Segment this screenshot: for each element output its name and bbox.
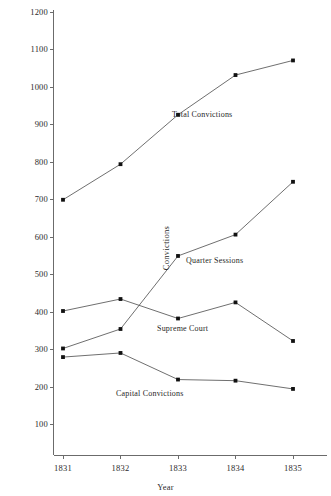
data-point: [61, 309, 65, 313]
data-point: [291, 339, 295, 343]
data-point: [61, 347, 65, 351]
data-point: [61, 355, 65, 359]
data-point: [291, 180, 295, 184]
data-point: [119, 327, 123, 331]
y-tick-label: 300: [12, 345, 48, 354]
line-chart: Convictions Year 10020030040050060070080…: [0, 0, 331, 496]
y-axis-title-text: Convictions: [161, 226, 171, 270]
series-label: Quarter Sessions: [186, 256, 243, 265]
data-point: [234, 233, 238, 237]
x-axis-title: Year: [0, 482, 331, 492]
series-label: Capital Convictions: [116, 389, 184, 398]
y-tick-label: 1000: [12, 83, 48, 92]
series-total-convictions: [61, 59, 295, 202]
y-tick-label: 700: [12, 195, 48, 204]
y-tick-label: 200: [12, 383, 48, 392]
data-point: [176, 378, 180, 382]
series-supreme-court: [61, 297, 295, 343]
series-label: Total Convictions: [172, 110, 232, 119]
data-point: [234, 73, 238, 77]
data-point: [234, 301, 238, 305]
data-point: [61, 198, 65, 202]
axes: [54, 10, 328, 456]
data-point: [119, 297, 123, 301]
data-point: [119, 351, 123, 355]
y-tick-label: 800: [12, 158, 48, 167]
y-tick-label: 100: [12, 420, 48, 429]
series-capital-convictions: [61, 351, 295, 391]
y-tick-label: 600: [12, 233, 48, 242]
data-point: [119, 162, 123, 166]
series-line: [63, 60, 293, 199]
y-tick-label: 900: [12, 120, 48, 129]
series-line: [63, 353, 293, 389]
y-tick-label: 400: [12, 308, 48, 317]
data-point: [234, 379, 238, 383]
y-tick-marks: [50, 13, 54, 425]
x-tick-label: 1835: [273, 464, 313, 473]
x-tick-label: 1832: [101, 464, 141, 473]
y-tick-label: 1200: [12, 8, 48, 17]
series-group: [61, 59, 295, 391]
y-tick-label: 500: [12, 270, 48, 279]
x-tick-marks: [63, 456, 293, 460]
data-point: [176, 317, 180, 321]
x-tick-label: 1833: [158, 464, 198, 473]
x-tick-label: 1831: [43, 464, 83, 473]
x-tick-label: 1834: [216, 464, 256, 473]
data-point: [176, 254, 180, 258]
data-point: [291, 387, 295, 391]
data-point: [291, 59, 295, 63]
y-tick-label: 1100: [12, 45, 48, 54]
series-label: Supreme Court: [157, 324, 208, 333]
